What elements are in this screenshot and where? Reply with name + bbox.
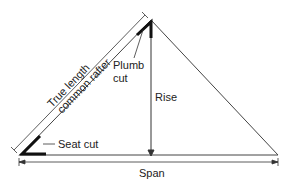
seat-cut-label: Seat cut: [58, 138, 98, 150]
seat-cut-mark: [22, 136, 46, 154]
rise-label: Rise: [155, 91, 177, 103]
rafter-diagram: True length common rafter Plumb cut Rise…: [0, 0, 292, 182]
plumb-cut-label-1: Plumb: [113, 59, 144, 71]
plumb-cut-mark: [137, 22, 151, 38]
span-dimension: [19, 158, 278, 166]
span-label: Span: [139, 167, 165, 179]
plumb-cut-label-2: cut: [113, 72, 128, 84]
right-rafter-line: [151, 20, 278, 155]
rise-arrow: [148, 22, 154, 156]
